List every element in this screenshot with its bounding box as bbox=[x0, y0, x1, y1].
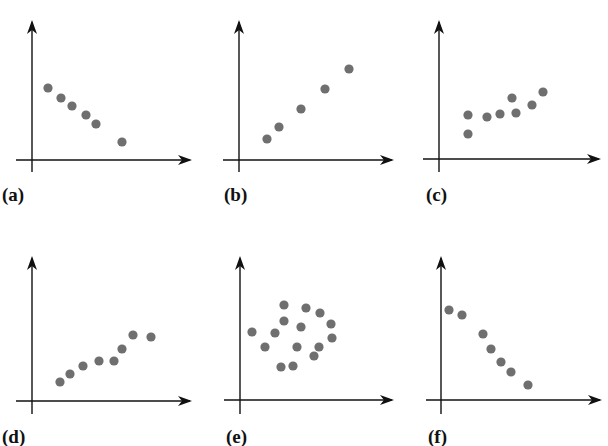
data-point bbox=[314, 342, 323, 351]
data-point bbox=[444, 305, 453, 314]
data-point bbox=[260, 342, 269, 351]
data-point bbox=[482, 112, 491, 121]
data-point bbox=[247, 327, 256, 336]
data-point bbox=[56, 93, 65, 102]
data-point bbox=[279, 316, 288, 325]
panel-label-c: (c) bbox=[426, 185, 447, 204]
data-point bbox=[279, 300, 288, 309]
data-point bbox=[109, 356, 118, 365]
data-point bbox=[326, 319, 335, 328]
data-point bbox=[128, 330, 137, 339]
data-point bbox=[276, 362, 285, 371]
scatter-panel-e bbox=[224, 258, 392, 414]
data-point bbox=[309, 351, 318, 360]
data-point bbox=[344, 64, 353, 73]
data-point bbox=[486, 344, 495, 353]
data-point bbox=[463, 129, 472, 138]
data-point bbox=[296, 104, 305, 113]
panel-label-f: (f) bbox=[428, 427, 447, 446]
data-point bbox=[457, 310, 466, 319]
data-point bbox=[538, 87, 547, 96]
data-point bbox=[146, 332, 155, 341]
data-point bbox=[65, 369, 74, 378]
data-point bbox=[117, 344, 126, 353]
data-point bbox=[91, 119, 100, 128]
data-point bbox=[507, 93, 516, 102]
panel-label-e: (e) bbox=[226, 427, 247, 446]
data-point bbox=[94, 356, 103, 365]
data-point bbox=[506, 367, 515, 376]
data-point bbox=[301, 303, 310, 312]
data-point bbox=[511, 108, 520, 117]
data-point bbox=[478, 329, 487, 338]
data-point bbox=[117, 137, 126, 146]
scatter-panel-c bbox=[423, 22, 599, 172]
scatter-panel-d bbox=[16, 258, 190, 414]
data-point bbox=[288, 361, 297, 370]
data-point bbox=[81, 110, 90, 119]
data-point bbox=[262, 134, 271, 143]
data-point bbox=[495, 109, 504, 118]
scatter-plot-figure bbox=[0, 0, 608, 446]
data-point bbox=[274, 122, 283, 131]
data-point bbox=[43, 83, 52, 92]
data-point bbox=[496, 357, 505, 366]
panel-label-a: (a) bbox=[2, 185, 24, 204]
data-point bbox=[55, 377, 64, 386]
data-point bbox=[463, 110, 472, 119]
data-point bbox=[78, 361, 87, 370]
data-point bbox=[315, 308, 324, 317]
scatter-panel-b bbox=[223, 22, 392, 172]
data-point bbox=[270, 328, 279, 337]
scatter-panel-a bbox=[16, 22, 190, 172]
data-point bbox=[523, 380, 532, 389]
scatter-panel-f bbox=[426, 258, 600, 414]
data-point bbox=[327, 333, 336, 342]
data-point bbox=[292, 342, 301, 351]
data-point bbox=[527, 100, 536, 109]
panel-label-d: (d) bbox=[2, 427, 25, 446]
panel-label-b: (b) bbox=[224, 185, 247, 204]
data-point bbox=[67, 101, 76, 110]
data-point bbox=[296, 322, 305, 331]
data-point bbox=[320, 84, 329, 93]
